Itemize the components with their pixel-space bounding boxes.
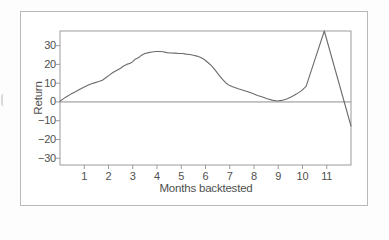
x-tick-label: 3 (120, 170, 146, 183)
y-tick-label: 30 (24, 39, 56, 52)
y-tick-label: −30 (24, 152, 56, 165)
y-tick-label: −10 (24, 114, 56, 127)
plot-area-border (60, 31, 351, 165)
return-series-line (60, 31, 351, 126)
x-tick-label: 9 (265, 170, 291, 183)
x-tick-label: 11 (314, 170, 340, 183)
y-tick-label: −20 (24, 133, 56, 146)
x-tick-label: 10 (290, 170, 316, 183)
x-axis-title: Months backtested (159, 182, 252, 194)
x-tick-label: 1 (71, 170, 97, 183)
x-tick-label: 2 (96, 170, 122, 183)
y-tick-label: 20 (24, 58, 56, 71)
x-axis-tick-marks (84, 165, 327, 169)
y-axis-title: Return (32, 81, 44, 114)
y-axis-tick-marks (56, 46, 60, 159)
